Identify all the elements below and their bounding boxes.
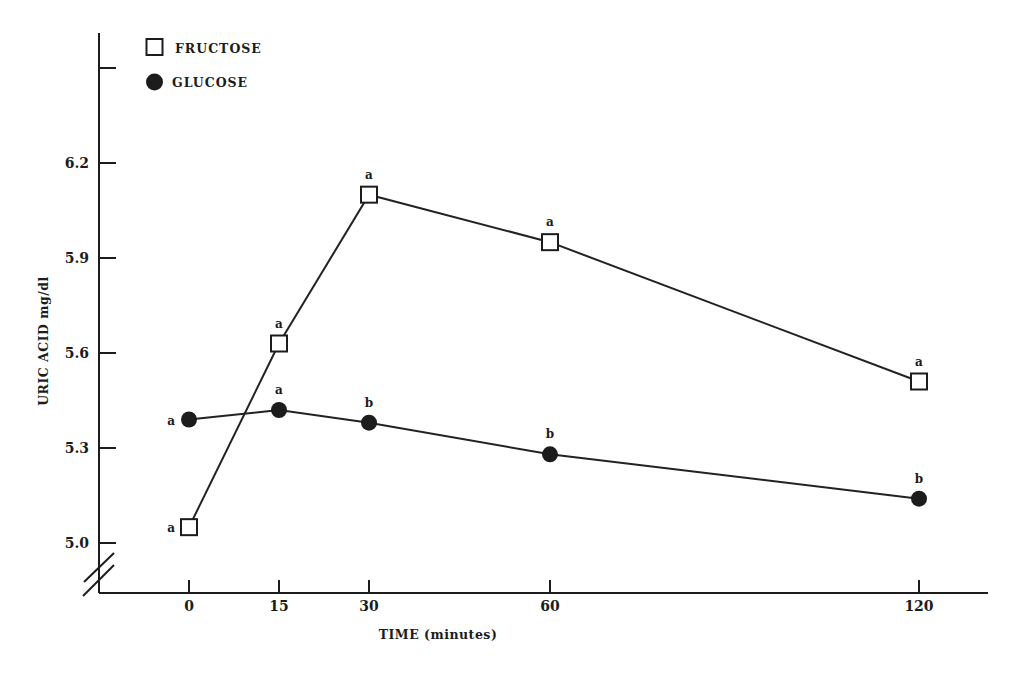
- y-tick-label: 5.3: [65, 440, 89, 456]
- x-axis-title: TIME (minutes): [379, 627, 498, 642]
- x-tick-label: 15: [269, 598, 288, 614]
- significance-label: a: [546, 215, 554, 229]
- x-tick-label: 120: [904, 598, 933, 614]
- filled-circle-icon: [146, 74, 163, 91]
- significance-label: a: [167, 521, 175, 535]
- y-axis-ticks: 5.05.35.65.96.2: [65, 68, 116, 551]
- legend-item-fructose: FRUCTOSE: [147, 39, 262, 56]
- filled-circle-icon: [271, 402, 287, 418]
- y-tick-label: 5.6: [65, 345, 89, 361]
- plot-area: aaaaaaabbb: [167, 168, 927, 536]
- filled-circle-icon: [911, 491, 927, 507]
- x-tick-label: 30: [359, 598, 379, 614]
- series-fructose: aaaaa: [167, 168, 927, 536]
- open-square-icon: [147, 39, 163, 55]
- legend-label-glucose: GLUCOSE: [172, 75, 248, 90]
- significance-label: a: [915, 355, 923, 369]
- significance-label: a: [275, 317, 283, 331]
- filled-circle-icon: [542, 446, 558, 462]
- series-glucose: aabbb: [167, 383, 927, 507]
- significance-label: b: [365, 396, 373, 410]
- significance-label: b: [546, 427, 554, 441]
- significance-label: b: [915, 472, 923, 486]
- y-axis-title: URIC ACID mg/dl: [36, 276, 51, 406]
- open-square-icon: [181, 519, 197, 535]
- x-axis-ticks: 0153060120: [184, 580, 934, 614]
- legend: FRUCTOSE GLUCOSE: [146, 39, 262, 91]
- significance-label: a: [365, 168, 373, 182]
- open-square-icon: [361, 187, 377, 203]
- y-tick-label: 5.0: [65, 535, 90, 551]
- x-tick-label: 0: [184, 598, 194, 614]
- legend-label-fructose: FRUCTOSE: [175, 41, 262, 56]
- x-tick-label: 60: [540, 598, 560, 614]
- chart-canvas: 5.05.35.65.96.2 URIC ACID mg/dl 01530601…: [0, 0, 1019, 673]
- legend-item-glucose: GLUCOSE: [146, 74, 248, 91]
- filled-circle-icon: [361, 415, 377, 431]
- significance-label: a: [167, 414, 175, 428]
- open-square-icon: [911, 374, 927, 390]
- y-tick-label: 6.2: [65, 155, 89, 171]
- x-axis: 0153060120 TIME (minutes): [99, 580, 988, 642]
- open-square-icon: [542, 234, 558, 250]
- y-tick-label: 5.9: [65, 250, 89, 266]
- y-axis: 5.05.35.65.96.2 URIC ACID mg/dl: [36, 33, 117, 596]
- open-square-icon: [271, 336, 287, 352]
- filled-circle-icon: [181, 412, 197, 428]
- significance-label: a: [275, 383, 283, 397]
- chart: 5.05.35.65.96.2 URIC ACID mg/dl 01530601…: [0, 0, 1019, 673]
